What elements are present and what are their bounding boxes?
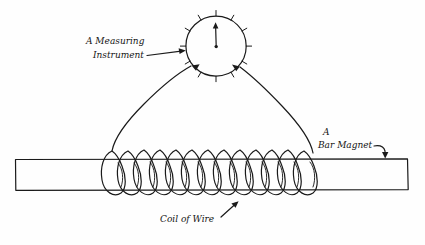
instrument-arrow-shaft [147,51,183,56]
right-lead-wire [240,67,313,153]
gauge-needle [213,22,219,48]
magnet-label-line2: Bar Magnet [317,140,373,150]
diagram-canvas: A Measuring Instrument A Bar Magnet Coil… [0,0,425,245]
coil-of-wire [101,150,317,195]
magnet-label-line1: A [322,127,330,137]
coil-label: Coil of Wire [160,214,214,224]
magnet-arrow-head [382,152,388,159]
magnet-label-group: A Bar Magnet [317,127,388,159]
coil-label-group: Coil of Wire [160,201,239,224]
instrument-label-line2: Instrument [92,50,144,60]
instrument-label-group: A Measuring Instrument [85,36,186,60]
bar-magnet-outline [16,159,409,191]
instrument-arrow-head [179,48,186,54]
instrument-label-line1: A Measuring [85,36,145,46]
measuring-instrument [180,11,251,82]
diagram-svg: A Measuring Instrument A Bar Magnet Coil… [0,0,425,245]
bar-magnet [16,159,409,191]
connecting-wires [112,66,313,153]
left-lead-wire [112,66,191,151]
